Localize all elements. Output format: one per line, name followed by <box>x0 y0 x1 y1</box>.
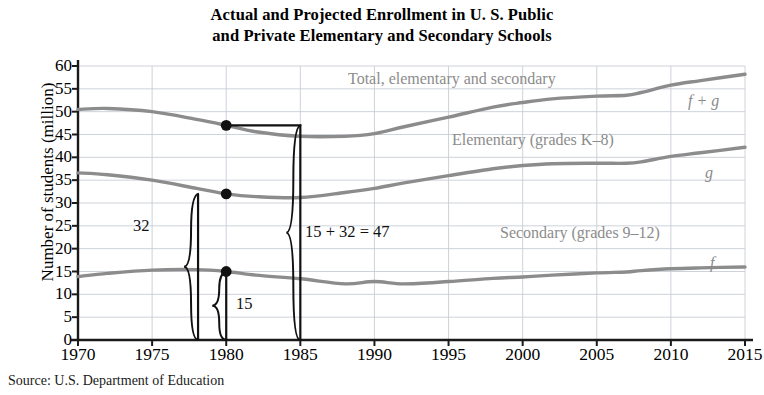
data-marker-47[interactable] <box>221 120 232 131</box>
data-marker-32[interactable] <box>221 188 232 199</box>
annotation-bracket-sum: 15 + 32 = 47 <box>305 222 390 242</box>
series-label-elementary: Elementary (grades K–8) <box>452 131 614 149</box>
source-note: Source: U.S. Department of Education <box>8 373 224 389</box>
annotation-brace-15 <box>212 272 226 340</box>
data-marker-15[interactable] <box>221 266 232 277</box>
series-fn-label-total: f + g <box>688 92 719 110</box>
series-label-secondary: Secondary (grades 9–12) <box>500 224 660 242</box>
annotation-brace-32 <box>184 194 198 340</box>
plot-area <box>0 0 764 395</box>
annotation-bracket-15: 15 <box>236 294 253 314</box>
series-fn-label-secondary: f <box>710 254 714 272</box>
series-curve-f <box>78 267 745 284</box>
series-fn-label-elementary: g <box>705 164 713 182</box>
annotation-bracket-32: 32 <box>133 216 150 236</box>
enrollment-chart-figure: Actual and Projected Enrollment in U. S.… <box>0 0 764 395</box>
series-curve-g <box>78 147 745 197</box>
series-label-total: Total, elementary and secondary <box>348 70 556 88</box>
